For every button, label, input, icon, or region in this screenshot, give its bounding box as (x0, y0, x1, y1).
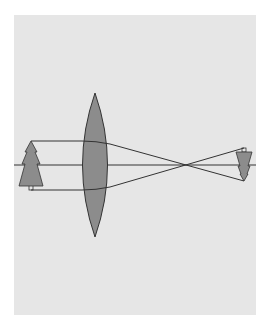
convex-lens (83, 93, 108, 237)
ray-top (31, 141, 244, 181)
ray-diagram (0, 0, 265, 324)
focal-crossing-point (182, 164, 184, 166)
ray-bottom (31, 148, 244, 190)
